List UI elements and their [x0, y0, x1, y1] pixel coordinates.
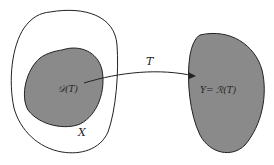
map-t-label: T: [146, 55, 153, 68]
space-x-label: X: [78, 126, 86, 139]
range-label: Y= ℛ(T): [200, 85, 236, 95]
mapping-diagram: [0, 0, 274, 165]
domain-label: 𝒟(T): [58, 84, 78, 95]
